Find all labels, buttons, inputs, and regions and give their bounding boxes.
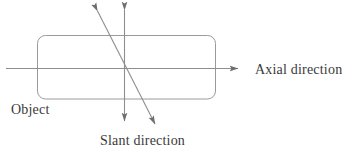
object-label: Object	[11, 103, 50, 117]
slant-direction-label: Slant direction	[100, 134, 185, 148]
slant-direction-arrow	[98, 11, 156, 124]
figure-canvas: Axial direction Object Slant direction	[0, 0, 357, 153]
axial-direction-label: Axial direction	[255, 63, 342, 77]
